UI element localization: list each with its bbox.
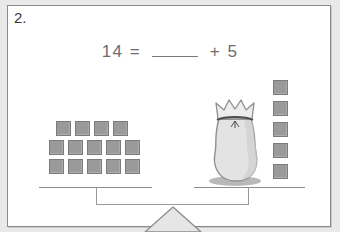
unit-square (49, 159, 64, 174)
unit-square (273, 101, 288, 116)
unit-square (106, 140, 121, 155)
unit-square (87, 140, 102, 155)
equation-right-operand: 5 (227, 42, 238, 62)
unit-square (273, 122, 288, 137)
unit-square (56, 121, 71, 136)
unit-square (75, 121, 90, 136)
right-pan-line (194, 187, 305, 188)
equation-plus-sign: + (210, 42, 221, 62)
left-pan-post (96, 187, 97, 205)
unit-square (68, 140, 83, 155)
beam-crossbar (96, 204, 249, 205)
equation-line: 14 = + 5 (8, 42, 332, 62)
unit-square (125, 159, 140, 174)
problem-number: 2. (14, 9, 27, 27)
unit-square (49, 140, 64, 155)
right-pan-post (248, 187, 249, 205)
equation-left-operand: 14 (102, 42, 124, 62)
equation-answer-blank[interactable] (152, 43, 198, 57)
unit-square (273, 80, 288, 95)
unit-square (94, 121, 109, 136)
unit-square (87, 159, 102, 174)
unit-square (113, 121, 128, 136)
triangle-fulcrum-icon (143, 206, 203, 232)
problem-card: 2. 14 = + 5 (7, 5, 331, 227)
unit-square (273, 143, 288, 158)
equation-equals-sign: = (130, 42, 141, 62)
mystery-bag-icon (204, 95, 266, 187)
unit-square (273, 164, 288, 179)
worksheet-page: 2. 14 = + 5 (0, 0, 340, 232)
unit-square (68, 159, 83, 174)
unit-square (106, 159, 121, 174)
unit-square (125, 140, 140, 155)
